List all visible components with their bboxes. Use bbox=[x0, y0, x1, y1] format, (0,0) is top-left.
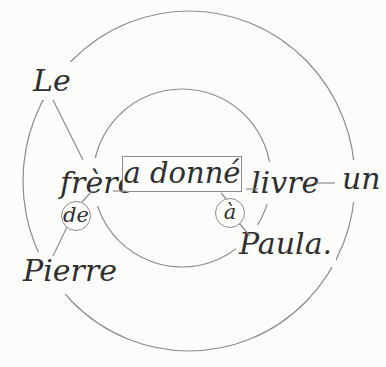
word-le: Le bbox=[30, 62, 76, 100]
preposition-de-circle: de bbox=[61, 201, 91, 231]
word-paula: Paula. bbox=[236, 225, 336, 267]
word-livre: livre bbox=[247, 162, 323, 204]
verb-label: a donné bbox=[123, 156, 240, 190]
word-pierre: Pierre bbox=[20, 252, 121, 294]
verb-box: a donné bbox=[122, 156, 242, 192]
word-un: un bbox=[339, 160, 385, 202]
valency-diagram: Le frère livre un Pierre Paula. a donné … bbox=[0, 0, 386, 367]
word-a: à bbox=[224, 200, 237, 224]
word-de: de bbox=[63, 203, 89, 227]
preposition-a-circle: à bbox=[215, 198, 245, 228]
